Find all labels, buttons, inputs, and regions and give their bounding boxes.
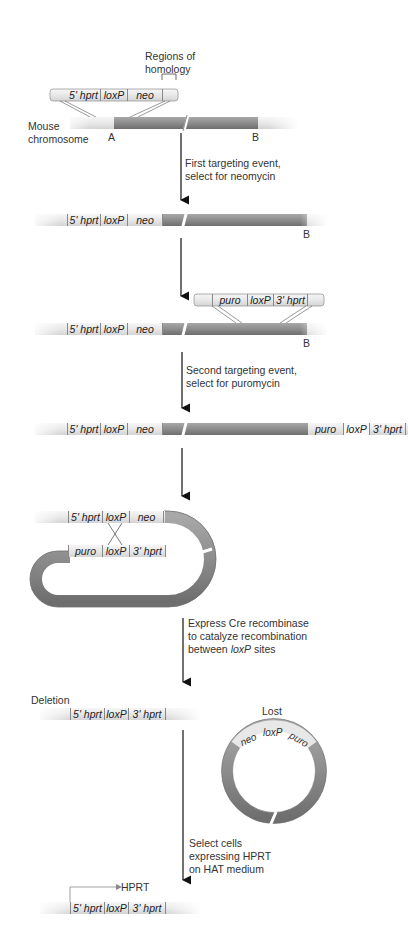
- seg-loxp: loxP: [105, 902, 129, 914]
- seg-neo: neo: [128, 214, 163, 226]
- seg-neo: neo: [128, 323, 163, 335]
- seg-5hprt: 5' hprt: [68, 511, 103, 523]
- seg-loxp: loxP: [105, 708, 129, 720]
- step-1-label: First targeting event,select for neomyci…: [185, 157, 281, 183]
- seg-3hprt: 3' hprt: [129, 902, 166, 914]
- deletion-label: Deletion: [31, 694, 70, 707]
- chromosome-loop: [30, 511, 216, 607]
- seg-5hprt: 5' hprt: [67, 89, 101, 101]
- seg-neo: neo: [130, 511, 164, 523]
- hprt-product-label: HPRT: [121, 881, 149, 894]
- seg-3hprt: 3' hprt: [129, 708, 166, 720]
- seg-3hprt: 3' hprt: [130, 545, 166, 557]
- step-2-label: Second targeting event,select for puromy…: [186, 364, 297, 390]
- circle-seg-loxp: loxP: [263, 726, 282, 739]
- step-4-label: Select cellsexpressing HPRTon HAT medium: [189, 837, 271, 876]
- seg-neo: neo: [128, 89, 163, 101]
- seg-loxp: loxP: [101, 214, 128, 226]
- seg-loxp: loxP: [101, 323, 128, 335]
- seg-loxp: loxP: [103, 545, 130, 557]
- promoter-arrow: [70, 887, 116, 902]
- seg-loxp: loxP: [248, 294, 274, 306]
- seg-5hprt: 5' hprt: [67, 423, 101, 435]
- point-b-label-2: B: [303, 228, 310, 241]
- mouse-chromosome: [60, 115, 298, 131]
- point-b-label-3: B: [303, 337, 310, 350]
- seg-5hprt: 5' hprt: [70, 902, 105, 914]
- seg-5hprt: 5' hprt: [67, 214, 101, 226]
- seg-3hprt: 3' hprt: [274, 294, 308, 306]
- mouse-chromosome-label: Mouse chromosome: [28, 120, 89, 146]
- seg-loxp: loxP: [344, 423, 370, 435]
- seg-5hprt: 5' hprt: [70, 708, 105, 720]
- seg-neo: neo: [128, 423, 163, 435]
- lost-label: Lost: [262, 705, 282, 718]
- seg-3hprt: 3' hprt: [370, 423, 406, 435]
- seg-loxp: loxP: [101, 89, 128, 101]
- point-b-label-1: B: [252, 131, 259, 144]
- step-3-label: Express Cre recombinaseto catalyze recom…: [188, 617, 309, 656]
- point-a-label: A: [108, 131, 115, 144]
- seg-puro: puro: [308, 423, 344, 435]
- seg-loxp: loxP: [103, 511, 130, 523]
- regions-of-homology-label: Regions of homology: [145, 50, 195, 76]
- seg-5hprt: 5' hprt: [67, 323, 101, 335]
- seg-puro: puro: [68, 545, 103, 557]
- seg-puro: puro: [212, 294, 248, 306]
- seg-loxp: loxP: [101, 423, 128, 435]
